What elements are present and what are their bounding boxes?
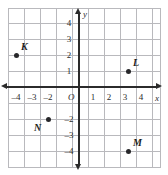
x-tick-label: 4 (136, 93, 146, 102)
x-tick-label: –4 (8, 93, 24, 102)
point-N[interactable] (46, 117, 51, 122)
y-tick-label: –2 (61, 115, 77, 124)
x-axis-label: x (155, 94, 159, 103)
y-tick-label: 4 (64, 19, 74, 28)
y-axis-arrow-down (75, 164, 81, 170)
y-tick-label: 1 (64, 67, 74, 76)
x-tick-label: 3 (120, 93, 130, 102)
grid-line-horizontal (8, 71, 161, 72)
x-axis-arrow-right (156, 83, 162, 89)
x-tick-label: 1 (88, 93, 98, 102)
grid-line-horizontal (8, 103, 161, 104)
point-K[interactable] (14, 53, 19, 58)
grid-line-horizontal (8, 135, 161, 136)
grid-line-horizontal (8, 39, 161, 40)
x-tick-label: –2 (40, 93, 56, 102)
origin-label: O (68, 93, 75, 102)
y-axis-label: y (83, 10, 87, 19)
grid-line-horizontal (8, 167, 161, 168)
point-M[interactable] (126, 149, 131, 154)
coordinate-plane: x y O –4 –3 –2 1 2 3 4 4 3 2 1 –2 –3 –4 … (0, 0, 168, 175)
y-axis-arrow-up (75, 8, 81, 14)
point-label-K: K (21, 42, 28, 52)
grid-line-horizontal (8, 119, 161, 120)
x-tick-label: –3 (24, 93, 40, 102)
grid-line-horizontal (8, 151, 161, 152)
y-tick-label: –4 (61, 147, 77, 156)
point-label-N: N (34, 123, 41, 133)
y-axis (78, 13, 80, 165)
grid-line-horizontal (8, 55, 161, 56)
x-axis-arrow-left (1, 83, 7, 89)
point-label-M: M (133, 138, 142, 148)
grid-line-horizontal (8, 23, 161, 24)
x-axis (5, 86, 157, 88)
point-label-L: L (133, 58, 139, 68)
point-L[interactable] (126, 69, 131, 74)
y-tick-label: 2 (64, 51, 74, 60)
y-tick-label: 3 (64, 35, 74, 44)
x-tick-label: 2 (104, 93, 114, 102)
y-tick-label: –3 (61, 131, 77, 140)
